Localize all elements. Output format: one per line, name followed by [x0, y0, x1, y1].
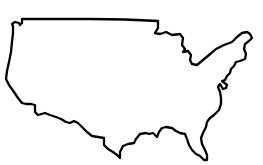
us-outline	[6, 19, 252, 160]
us-map	[0, 0, 263, 165]
us-outline-svg	[0, 0, 263, 165]
